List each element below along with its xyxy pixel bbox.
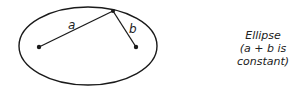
- ellipse-point: [111, 9, 115, 13]
- caption-subtitle: (a + b is constant): [218, 42, 307, 68]
- label-b: b: [129, 22, 137, 36]
- segment-a: [39, 11, 113, 47]
- focus-right: [134, 45, 138, 49]
- caption: Ellipse (a + b is constant): [218, 29, 307, 68]
- caption-title: Ellipse: [218, 29, 307, 42]
- label-a: a: [68, 18, 75, 32]
- focus-left: [37, 45, 41, 49]
